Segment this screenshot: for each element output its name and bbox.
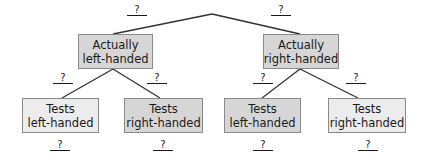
node-label-line2: left-handed — [27, 116, 93, 130]
node-label-line1: Actually — [278, 38, 324, 52]
node-label-line2: left-handed — [229, 116, 295, 130]
result-label-right-right: ? — [358, 139, 378, 151]
edge-label-right-tests-left: ? — [253, 72, 273, 84]
edge-label-left-tests-right: ? — [147, 72, 167, 84]
node-label-line2: right-handed — [330, 116, 404, 130]
edge-label-actually-left: ? — [127, 4, 147, 16]
node-label-line2: right-handed — [264, 52, 338, 66]
result-label-left-left: ? — [50, 139, 70, 151]
node-right-tests-left-handed: Tests left-handed — [224, 98, 301, 133]
node-label-line1: Tests — [149, 102, 178, 116]
node-left-tests-right-handed: Tests right-handed — [124, 98, 203, 133]
node-label-line1: Tests — [248, 102, 277, 116]
node-label-line2: left-handed — [82, 52, 148, 66]
edge-root-right — [212, 14, 300, 34]
node-right-tests-right-handed: Tests right-handed — [328, 98, 406, 133]
node-left-tests-left-handed: Tests left-handed — [22, 98, 99, 133]
node-label-line1: Actually — [92, 38, 138, 52]
edge-root-left — [113, 14, 212, 34]
edge-label-left-tests-left: ? — [53, 72, 73, 84]
node-actually-left-handed: Actually left-handed — [78, 34, 153, 69]
tree-diagram: ? ? Actually left-handed Actually right-… — [0, 0, 427, 162]
edge-label-right-tests-right: ? — [346, 72, 366, 84]
node-label-line1: Tests — [46, 102, 75, 116]
node-actually-right-handed: Actually right-handed — [263, 34, 339, 69]
node-label-line1: Tests — [353, 102, 382, 116]
result-label-right-left: ? — [253, 139, 273, 151]
edge-label-actually-right: ? — [271, 4, 291, 16]
result-label-left-right: ? — [153, 139, 173, 151]
node-label-line2: right-handed — [126, 116, 200, 130]
